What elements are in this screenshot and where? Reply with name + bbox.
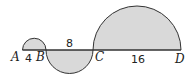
length-ab-label: 4	[25, 52, 32, 65]
point-c-label: C	[95, 50, 104, 64]
semicircle-ab	[23, 38, 47, 50]
length-bc-label: 8	[66, 37, 73, 50]
point-a-label: A	[10, 50, 20, 64]
semicircle-cd	[93, 6, 181, 50]
semicircle-bc	[46, 50, 93, 73]
point-d-label: D	[174, 52, 185, 66]
length-cd-label: 16	[131, 53, 145, 66]
point-b-label: B	[35, 50, 45, 64]
semicircle-diagram: A B C D 4 8 16	[0, 0, 194, 78]
